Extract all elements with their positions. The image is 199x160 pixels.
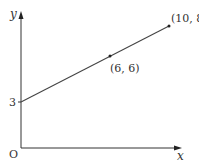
- point-label-6-6: (6, 6): [110, 62, 140, 75]
- point-label-10-8: (10, 8): [171, 12, 199, 25]
- point-6-6: [109, 55, 112, 58]
- coordinate-diagram: y x O 3 (10, 8) (6, 6): [0, 0, 199, 160]
- y-axis-arrow-icon: [19, 11, 24, 19]
- y-intercept-label: 3: [9, 96, 16, 109]
- y-axis-label: y: [9, 7, 17, 21]
- graph-line: [21, 26, 169, 102]
- x-axis-label: x: [177, 149, 184, 160]
- origin-label: O: [9, 148, 18, 160]
